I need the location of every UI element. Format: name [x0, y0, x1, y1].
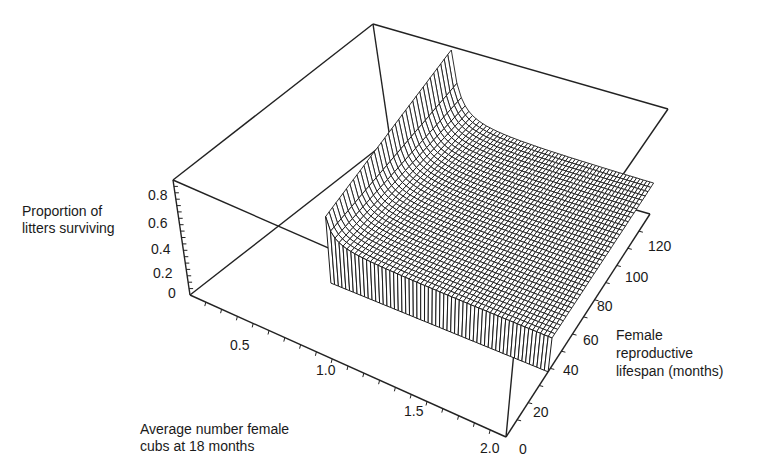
x-tick-1.0: 1.0	[316, 362, 335, 378]
z-axis-label-line-1: Proportion of	[22, 203, 115, 220]
x-axis-label-line-1: Average number female	[140, 421, 289, 438]
x-axis-label: Average number female cubs at 18 months	[140, 421, 289, 455]
y-axis-label-line-1: Female	[616, 326, 723, 344]
z-tick-0: 0	[168, 285, 176, 301]
y-axis-label-line-3: lifespan (months)	[616, 362, 723, 380]
y-tick-40: 40	[563, 362, 579, 378]
y-axis-label: Female reproductive lifespan (months)	[616, 326, 723, 380]
y-tick-120: 120	[648, 238, 671, 254]
y-axis-label-line-2: reproductive	[616, 344, 723, 362]
y-tick-0: 0	[519, 441, 527, 457]
z-axis-label-line-2: litters surviving	[22, 220, 115, 237]
surface-mesh	[326, 50, 654, 372]
z-tick-0.2: 0.2	[153, 265, 172, 281]
x-tick-1.5: 1.5	[404, 403, 423, 419]
x-axis-label-line-2: cubs at 18 months	[140, 438, 289, 455]
y-tick-80: 80	[597, 298, 613, 314]
x-tick-2.0: 2.0	[480, 440, 499, 456]
z-axis-label: Proportion of litters surviving	[22, 203, 115, 237]
z-tick-0.6: 0.6	[148, 215, 167, 231]
x-tick-0.5: 0.5	[230, 337, 249, 353]
y-tick-20: 20	[533, 404, 549, 420]
z-tick-0.4: 0.4	[151, 241, 170, 257]
y-tick-100: 100	[625, 269, 648, 285]
y-tick-60: 60	[583, 332, 599, 348]
z-tick-0.8: 0.8	[148, 187, 167, 203]
